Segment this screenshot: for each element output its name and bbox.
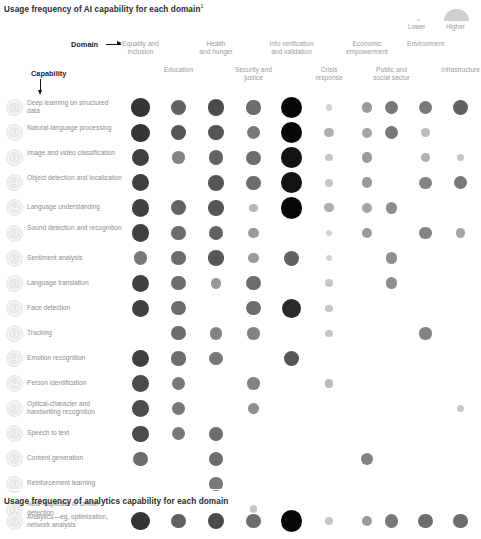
bubble: [171, 351, 185, 365]
column-header-line: Security and: [221, 66, 287, 74]
bubble: [248, 403, 260, 415]
bubble: [208, 200, 224, 216]
bubble: [419, 227, 431, 239]
row-label: Language understanding: [27, 203, 123, 211]
page-title-text: Usage frequency of AI capability for eac…: [4, 5, 201, 14]
bubble: [362, 516, 373, 527]
bubble: [246, 276, 260, 290]
bubble: [362, 177, 373, 188]
bubble: [132, 375, 149, 392]
bubble: [209, 150, 224, 165]
column-header-line: Crisis: [296, 66, 362, 74]
column-header-top-4: Environment: [393, 40, 459, 48]
bubble: [325, 154, 332, 161]
bubble: [386, 252, 398, 264]
bubble: [131, 124, 149, 142]
column-header-line: Health: [183, 40, 249, 48]
column-header-top-2: Info verificationand validation: [259, 40, 325, 57]
bubble: [131, 98, 149, 116]
bubble: [386, 277, 398, 289]
object-detection-icon: [6, 174, 23, 191]
row-label: Image and video classification: [27, 149, 123, 157]
row-label: Reinforcement learning: [27, 479, 123, 487]
bubble: [385, 101, 398, 114]
bubble: [325, 279, 332, 286]
capability-arrow-icon: [40, 79, 41, 91]
content-generation-icon: [6, 450, 23, 467]
bubble: [172, 151, 184, 163]
row-label: Content generation: [27, 454, 123, 462]
column-header-line: Environment: [393, 40, 459, 48]
bubble: [208, 513, 225, 530]
bubble: [209, 452, 223, 466]
bubble: [421, 128, 429, 136]
capability-axis-label: Capability: [31, 69, 66, 78]
column-header-line: empowerment: [334, 48, 400, 56]
deep-learning-icon: [6, 99, 23, 116]
bubble: [453, 514, 467, 528]
bubble: [362, 102, 373, 113]
bubble: [456, 228, 466, 238]
bubble: [247, 377, 259, 389]
column-header-line: and hunger: [183, 48, 249, 56]
bubble: [362, 128, 372, 138]
bubble: [247, 327, 259, 339]
row-label: Sound detection and recognition: [27, 224, 123, 232]
row-label: Natural-language processing: [27, 124, 123, 132]
column-header-line: and validation: [259, 48, 325, 56]
bubble: [385, 126, 398, 139]
translation-icon: [6, 275, 23, 292]
nlp-icon: [6, 124, 23, 141]
column-header-top-3: Economicempowerment: [334, 40, 400, 57]
bubble: [209, 427, 223, 441]
row-label: Speech to text: [27, 429, 123, 437]
column-header-line: inclusion: [108, 48, 174, 56]
bubble: [281, 147, 302, 168]
section-divider: [0, 489, 481, 490]
bubble: [208, 99, 225, 116]
bubble: [172, 402, 185, 415]
bubble: [171, 125, 187, 141]
bubble: [208, 250, 224, 266]
column-header-line: Equality and: [108, 40, 174, 48]
sound-detection-icon: [6, 225, 23, 242]
bubble: [326, 230, 333, 237]
bubble: [325, 330, 332, 337]
bubble: [248, 253, 259, 264]
bubble: [325, 305, 332, 312]
bubble: [171, 100, 186, 115]
bubble: [281, 172, 302, 193]
bubble: [454, 176, 467, 189]
bubble: [453, 100, 468, 115]
bubble: [281, 510, 303, 532]
legend-lower-swatch: [417, 19, 420, 21]
page-title-footnote: 1: [201, 3, 204, 9]
column-header-bottom-3: Public andsocial sector: [359, 66, 425, 83]
person-id-icon: [6, 375, 23, 392]
bubble: [281, 197, 303, 219]
bubble: [325, 179, 332, 186]
column-header-line: Infrastructure: [428, 66, 481, 74]
row-label: Person identification: [27, 379, 123, 387]
bubble: [134, 251, 147, 264]
column-header-line: Economic: [334, 40, 400, 48]
face-detection-icon: [6, 300, 23, 317]
sentiment-icon: [6, 250, 23, 267]
bubble: [132, 275, 149, 292]
bubble: [172, 427, 185, 440]
bubble: [132, 149, 149, 166]
bubble: [132, 300, 149, 317]
bubble: [171, 200, 186, 215]
column-header-bottom-4: Infrastructure: [428, 66, 481, 74]
bubble: [457, 154, 464, 161]
language-understanding-icon: [6, 199, 23, 216]
bubble: [208, 125, 224, 141]
image-video-icon: [6, 149, 23, 166]
column-header-line: Public and: [359, 66, 425, 74]
bubble-chart-root: Usage frequency of AI capability for eac…: [0, 0, 481, 539]
bubble: [246, 100, 260, 114]
bubble: [324, 128, 333, 137]
bubble: [171, 514, 186, 529]
column-header-line: Education: [146, 66, 212, 74]
bubble: [421, 153, 430, 162]
